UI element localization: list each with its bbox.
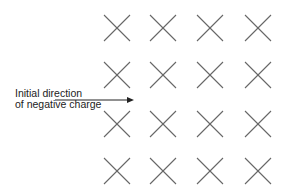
field-x-icon xyxy=(245,62,271,88)
field-x-icon xyxy=(150,158,176,184)
field-x-icon xyxy=(104,15,130,41)
field-x-icon xyxy=(245,111,271,137)
field-x-icon xyxy=(150,15,176,41)
field-x-icon xyxy=(245,158,271,184)
arrow-head-icon xyxy=(127,97,134,103)
field-x-icon xyxy=(104,158,130,184)
field-x-icon xyxy=(197,158,223,184)
label-line-2: of negative charge xyxy=(15,99,101,110)
field-x-icon xyxy=(245,15,271,41)
field-x-icon xyxy=(104,62,130,88)
field-x-icon xyxy=(150,111,176,137)
field-x-icon xyxy=(197,62,223,88)
field-x-icon xyxy=(197,15,223,41)
field-x-icon xyxy=(197,111,223,137)
field-x-icon xyxy=(150,62,176,88)
initial-direction-label: Initial direction of negative charge xyxy=(15,88,101,110)
field-x-icon xyxy=(104,111,130,137)
